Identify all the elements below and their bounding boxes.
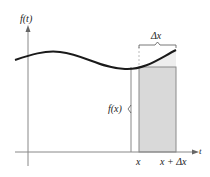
area-diagram: f(t) t Δx f(x) x x + Δx (0, 0, 210, 177)
x-axis-arrow-icon (192, 150, 199, 155)
delta-x-brace-icon (139, 42, 176, 48)
y-axis-label: f(t) (20, 14, 32, 24)
x-plus-delta-x-label: x + Δx (160, 157, 187, 167)
y-axis-arrow-icon (26, 25, 31, 32)
fx-label: f(x) (108, 104, 122, 114)
delta-x-label: Δx (151, 31, 161, 41)
area-rectangle (139, 67, 176, 152)
x-point-label: x (136, 157, 140, 167)
diagram-canvas (0, 0, 210, 177)
x-axis-label: t (199, 147, 202, 156)
